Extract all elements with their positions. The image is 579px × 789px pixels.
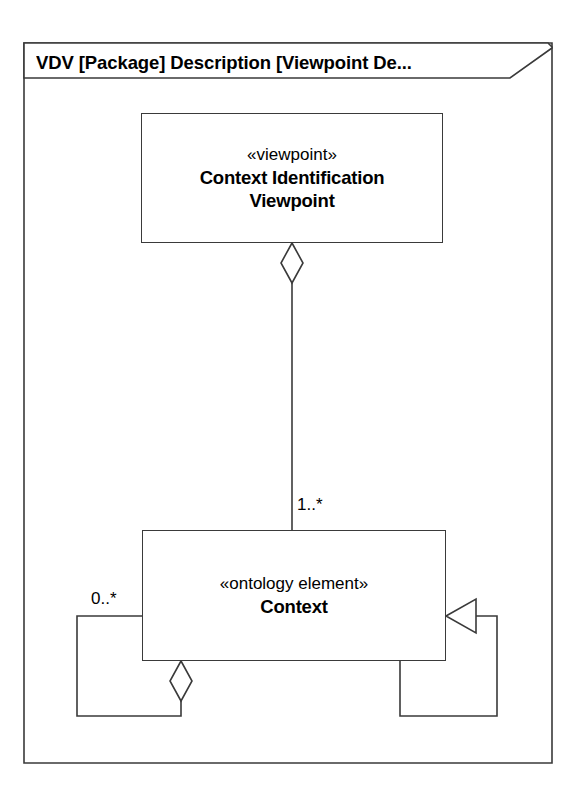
class-name-context: Context xyxy=(260,595,327,618)
class-box-context-identification-viewpoint[interactable]: «viewpoint» Context Identification Viewp… xyxy=(141,113,443,243)
class-box-context[interactable]: «ontology element» Context xyxy=(142,530,446,661)
multiplicity-label-viewpoint-context: 1..* xyxy=(297,495,323,515)
class-stereotype-viewpoint: «viewpoint» xyxy=(247,144,337,166)
class-name-viewpoint-line1: Context Identification xyxy=(200,166,385,189)
class-stereotype-context: «ontology element» xyxy=(220,573,368,595)
multiplicity-label-context-self: 0..* xyxy=(91,589,117,609)
class-name-viewpoint-line2: Viewpoint xyxy=(249,189,334,212)
uml-diagram-canvas: VDV [Package] Description [Viewpoint De.… xyxy=(0,0,579,789)
package-frame-title: VDV [Package] Description [Viewpoint De.… xyxy=(36,50,496,76)
